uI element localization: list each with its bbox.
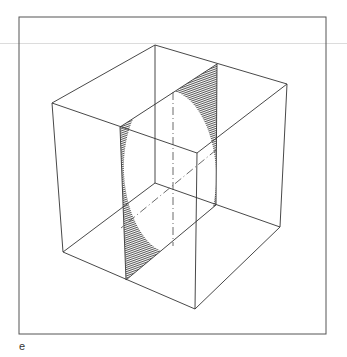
cube-diagram	[0, 0, 347, 357]
figure-label: e	[19, 340, 25, 352]
slice-plane	[120, 64, 220, 280]
